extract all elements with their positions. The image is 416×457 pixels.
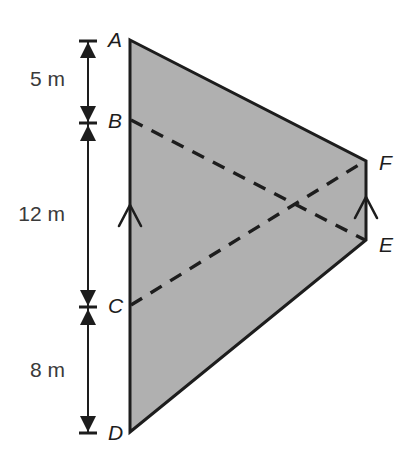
dimension-label-cd: 8 m [30, 358, 65, 381]
vertex-label-c: C [108, 294, 124, 317]
dimension-arrow-c-up-icon [80, 309, 96, 325]
vertex-label-e: E [379, 233, 394, 256]
figure-canvas: 5 m 12 m 8 m A B C D F E [0, 0, 416, 457]
dimension-arrow-a-up-icon [80, 42, 96, 58]
geometry-figure: 5 m 12 m 8 m A B C D F E [0, 0, 416, 457]
shaded-polygon [130, 40, 366, 432]
dimension-arrow-b-down-icon [80, 106, 96, 122]
vertex-label-f: F [379, 151, 393, 174]
dimension-arrow-c-down-icon [80, 290, 96, 306]
dimension-arrow-b-up-icon [80, 125, 96, 141]
vertex-label-d: D [108, 421, 123, 444]
dimension-label-bc: 12 m [18, 202, 65, 225]
vertex-label-b: B [108, 109, 122, 132]
dimension-arrow-d-down-icon [80, 416, 96, 432]
vertex-label-a: A [106, 28, 122, 51]
dimension-label-ab: 5 m [30, 67, 65, 90]
